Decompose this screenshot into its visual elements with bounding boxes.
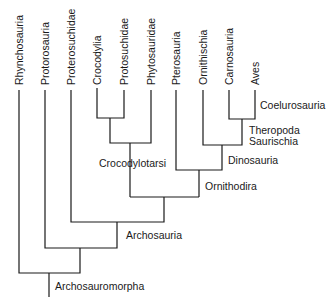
cladogram: Rhynchosauria Protorosauria Proterosuchi… bbox=[0, 0, 334, 306]
leaf-label-protosuchidae: Protosuchidae bbox=[118, 18, 130, 85]
clade-label-ornithodira: Ornithodira bbox=[205, 180, 257, 192]
leaf-label-pterosauria: Pterosauria bbox=[170, 31, 182, 85]
clade-label-archosauria: Archosauria bbox=[126, 229, 182, 241]
leaf-label-crocodylia: Crocodylia bbox=[91, 35, 103, 85]
leaf-labels: Rhynchosauria Protorosauria Proterosuchi… bbox=[13, 8, 261, 85]
leaf-label-carnosauria: Carnosauria bbox=[223, 28, 235, 85]
leaf-label-proterosuchidae: Proterosuchidae bbox=[65, 8, 77, 85]
branch-coelurosauria bbox=[229, 90, 255, 119]
branch-archosauria bbox=[71, 90, 164, 222]
branch-crocodylia-protosuchidae bbox=[97, 88, 124, 118]
clade-label-archosauromorpha: Archosauromorpha bbox=[55, 280, 144, 292]
leaf-label-rhynchosauria: Rhynchosauria bbox=[13, 15, 25, 85]
branch-protorosauria bbox=[45, 90, 117, 248]
clade-label-coelurosauria: Coelurosauria bbox=[260, 99, 326, 111]
clade-label-saurischia: Saurischia bbox=[249, 135, 298, 147]
leaf-label-ornithischia: Ornithischia bbox=[197, 29, 209, 85]
leaf-label-protorosauria: Protorosauria bbox=[39, 22, 51, 85]
leaf-label-phytosauridae: Phytosauridae bbox=[145, 18, 157, 85]
clade-labels: Coelurosauria Theropoda Saurischia Dinos… bbox=[55, 99, 326, 292]
leaf-label-aves: Aves bbox=[249, 62, 261, 85]
branches bbox=[19, 88, 255, 297]
branch-dinosauria bbox=[176, 90, 222, 170]
clade-label-dinosauria: Dinosauria bbox=[228, 154, 278, 166]
branch-crocodylotarsi-inner bbox=[110, 90, 151, 143]
clade-label-crocodylotarsi: Crocodylotarsi bbox=[99, 157, 166, 169]
branch-saurischia bbox=[203, 90, 242, 145]
